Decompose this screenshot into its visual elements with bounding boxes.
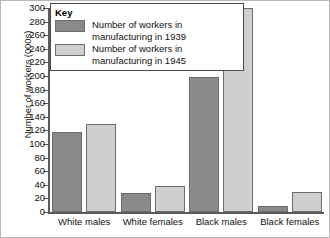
y-tick-label: 240	[15, 43, 45, 54]
y-tick-label: 20	[15, 192, 45, 203]
y-tick-label: 160	[15, 97, 45, 108]
y-tick-label: 200	[15, 70, 45, 81]
x-axis-label: Black males	[187, 216, 256, 227]
bar	[121, 193, 151, 212]
y-tick-label: 80	[15, 152, 45, 163]
x-axis-line	[48, 212, 324, 214]
y-tick-label: 60	[15, 165, 45, 176]
bar-chart: Number of workers (000s) 020406080100120…	[0, 0, 330, 238]
legend-item: Number of workers in manufacturing in 19…	[55, 19, 239, 42]
y-tick-label: 180	[15, 84, 45, 95]
bar	[86, 124, 116, 212]
y-tick-label: 0	[15, 206, 45, 217]
legend-entries: Number of workers in manufacturing in 19…	[55, 19, 239, 66]
y-tick-label: 40	[15, 179, 45, 190]
bar	[258, 206, 288, 212]
legend-label: Number of workers in manufacturing in 19…	[92, 43, 186, 66]
legend-swatch	[55, 20, 85, 32]
y-tick-label: 300	[15, 2, 45, 13]
bar	[155, 186, 185, 212]
y-tick-label: 140	[15, 111, 45, 122]
legend-swatch	[55, 44, 85, 56]
y-tick-label: 260	[15, 29, 45, 40]
legend-label: Number of workers in manufacturing in 19…	[92, 19, 186, 42]
bar	[292, 192, 322, 212]
bar	[52, 132, 82, 212]
y-tick-label: 100	[15, 138, 45, 149]
y-tick-label: 120	[15, 124, 45, 135]
x-axis-label: Black females	[256, 216, 325, 227]
bar	[189, 77, 219, 212]
legend: Key Number of workers in manufacturing i…	[50, 3, 244, 71]
legend-title: Key	[55, 7, 239, 18]
y-tick-label: 220	[15, 56, 45, 67]
legend-item: Number of workers in manufacturing in 19…	[55, 43, 239, 66]
x-axis-label: White males	[50, 216, 119, 227]
y-tick-label: 280	[15, 16, 45, 27]
x-axis-label: White females	[119, 216, 188, 227]
